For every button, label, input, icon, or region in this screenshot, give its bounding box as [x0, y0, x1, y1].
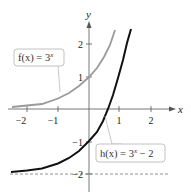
svg-text:f(x) = 3x: f(x) = 3x [18, 51, 54, 64]
x-tick-label: 2 [149, 115, 154, 126]
y-tick-label: 1 [78, 72, 83, 83]
callout-h-suffix: − 2 [137, 148, 153, 159]
y-tick-label: −2 [72, 169, 83, 180]
graph: −2 −1 1 2 2 1 −1 −2 x y f(x) = 3x h(x) =… [0, 0, 191, 196]
callout-h: h(x) = 3x − 2 [96, 116, 165, 162]
svg-text:h(x) = 3x − 2: h(x) = 3x − 2 [100, 147, 153, 160]
callout-f-label: f(x) = 3 [18, 52, 50, 64]
callout-h-label: h(x) = 3 [100, 148, 134, 160]
x-axis-label: x [177, 103, 183, 115]
y-axis-arrow-icon [87, 21, 92, 28]
y-axis-label: y [85, 8, 91, 20]
x-tick-label: −1 [48, 115, 59, 126]
y-tick-label: −1 [72, 137, 83, 148]
y-tick-label: 2 [78, 39, 83, 50]
x-tick-label: 1 [117, 115, 122, 126]
callout-f: f(x) = 3x [14, 49, 64, 92]
x-axis-arrow-icon [169, 107, 176, 112]
x-tick-label: −2 [16, 115, 27, 126]
curve-f [12, 30, 115, 107]
